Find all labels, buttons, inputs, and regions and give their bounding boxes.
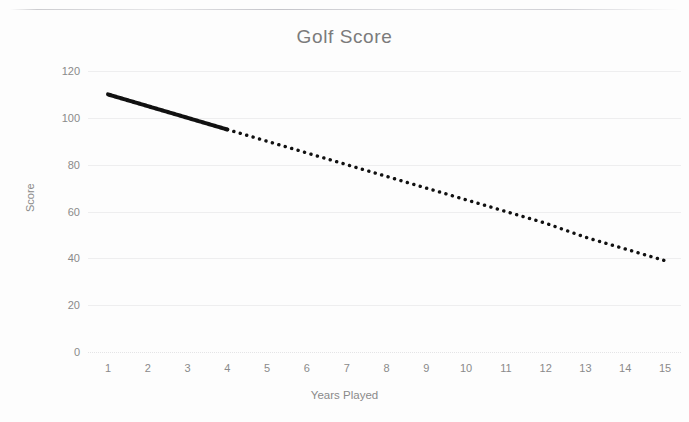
gridline [88, 258, 681, 259]
chart-page: Golf Score Score 120100806040200 1234567… [0, 0, 689, 422]
x-axis-tick-label: 2 [134, 362, 162, 374]
y-axis-tick-label: 120 [40, 65, 80, 77]
y-axis-tick-label: 40 [40, 252, 80, 264]
x-axis-tick-label: 13 [571, 362, 599, 374]
x-axis-tick-label: 14 [611, 362, 639, 374]
y-axis-title: Score [24, 183, 36, 212]
x-axis-tick-label: 4 [213, 362, 241, 374]
y-axis-tick-label: 20 [40, 299, 80, 311]
x-axis-tick-label: 8 [373, 362, 401, 374]
y-axis-tick-label: 60 [40, 206, 80, 218]
gridline [88, 71, 681, 72]
y-axis-tick-label: 0 [40, 346, 80, 358]
x-axis-tick-label: 9 [412, 362, 440, 374]
x-axis-title: Years Played [0, 389, 689, 401]
x-axis-tick-label: 7 [333, 362, 361, 374]
gridline [88, 118, 681, 119]
gridline [88, 165, 681, 166]
x-axis-tick-label: 3 [174, 362, 202, 374]
x-axis-tick-label: 12 [532, 362, 560, 374]
x-axis-tick-label: 10 [452, 362, 480, 374]
x-axis-tick-label: 15 [651, 362, 679, 374]
plot-area: 120100806040200 [88, 71, 681, 352]
chart-title: Golf Score [0, 26, 689, 48]
y-axis-tick-label: 80 [40, 159, 80, 171]
scan-edge-artifact [10, 9, 680, 10]
gridline [88, 352, 681, 353]
x-axis-tick-label: 1 [94, 362, 122, 374]
x-axis-tick-label: 11 [492, 362, 520, 374]
gridline [88, 212, 681, 213]
gridline [88, 305, 681, 306]
y-axis-tick-label: 100 [40, 112, 80, 124]
x-axis-tick-label: 5 [253, 362, 281, 374]
x-axis-tick-label: 6 [293, 362, 321, 374]
